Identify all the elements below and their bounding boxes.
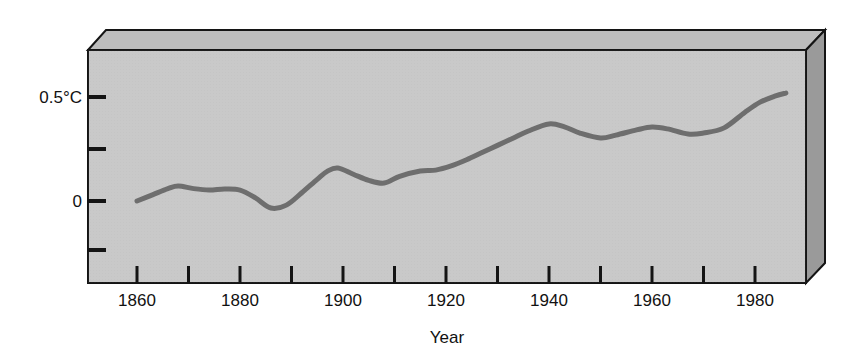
x-axis-tick-labels: 1860188019001920194019601980	[118, 291, 774, 310]
chart-3d-top-face	[88, 30, 825, 50]
temperature-anomaly-chart: 0.5°C 0 1860188019001920194019601980 Yea…	[0, 0, 867, 360]
y-axis-label-zero: 0	[73, 192, 82, 211]
x-tick-label-1920: 1920	[427, 291, 465, 310]
chart-container: 0.5°C 0 1860188019001920194019601980 Yea…	[0, 0, 867, 360]
x-tick-label-1940: 1940	[530, 291, 568, 310]
y-axis-label-upper: 0.5°C	[39, 88, 82, 107]
x-axis-title: Year	[430, 328, 465, 347]
x-tick-label-1860: 1860	[118, 291, 156, 310]
x-tick-label-1960: 1960	[633, 291, 671, 310]
x-tick-label-1980: 1980	[736, 291, 774, 310]
chart-3d-right-face	[806, 30, 825, 283]
x-tick-label-1900: 1900	[324, 291, 362, 310]
x-tick-label-1880: 1880	[221, 291, 259, 310]
